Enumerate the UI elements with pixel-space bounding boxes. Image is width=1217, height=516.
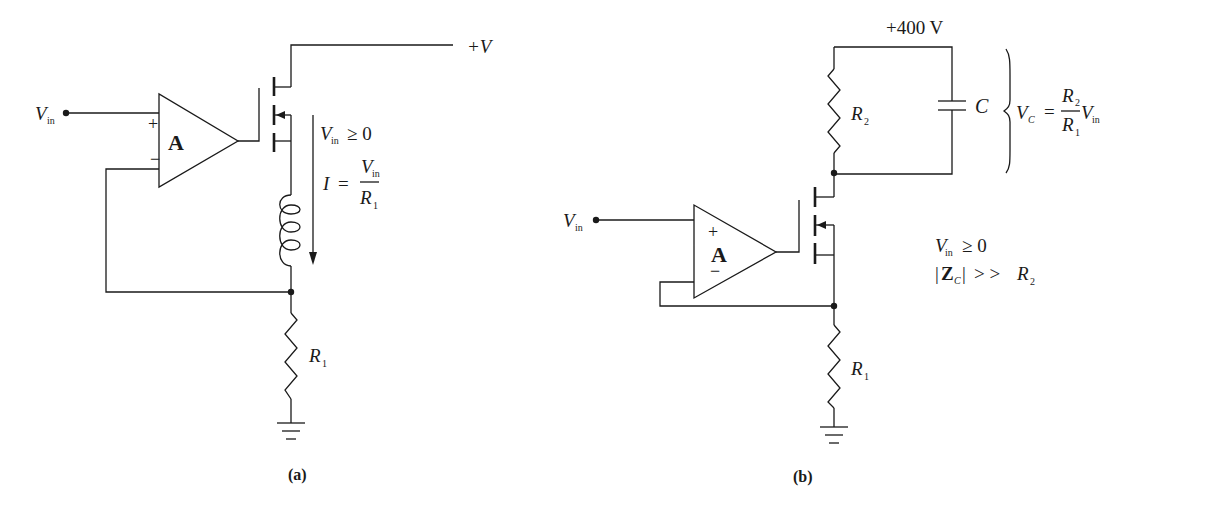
cond2-z-b: Z xyxy=(941,263,954,284)
opamp-plus-a: + xyxy=(148,114,158,134)
feedback-wire-a xyxy=(106,169,291,292)
arrow-head-icon xyxy=(309,252,317,265)
vin-sub-b: in xyxy=(575,222,583,233)
cap-label-b: C xyxy=(975,95,989,117)
vin-sub-a: in xyxy=(47,115,55,126)
inductor-a xyxy=(280,195,300,266)
resistor-r2-b xyxy=(828,69,840,153)
cond-sub-a: in xyxy=(331,135,339,146)
vc-den-sub-b: 1 xyxy=(1075,127,1080,138)
panel-a: V in + − A +V V in xyxy=(35,36,494,484)
feedback-wire-b xyxy=(660,282,834,306)
circuit-diagram: V in + − A +V V in xyxy=(0,0,1217,516)
caption-a: (a) xyxy=(288,466,307,484)
vc-num-b: R xyxy=(1061,85,1074,106)
vc-den-b: R xyxy=(1061,114,1074,135)
cond1-sub-b: in xyxy=(945,247,953,258)
cond1-rest-b: ≥ 0 xyxy=(962,235,987,256)
cond2-close-b: | xyxy=(962,263,966,284)
supply-rail-b xyxy=(834,47,952,101)
capacitor-b xyxy=(938,101,966,110)
supply-wire-a xyxy=(291,45,453,87)
cond2-rest-b: > > xyxy=(974,263,1000,284)
cond-rest-a: ≥ 0 xyxy=(347,123,372,144)
panel-b: V in + − A R 2 +400 V xyxy=(563,17,1100,486)
supply-label-b: +400 V xyxy=(886,17,944,38)
resistor-r1-a xyxy=(285,313,297,399)
cond2-zsub-b: C xyxy=(954,275,961,286)
eq-den-sub-a: 1 xyxy=(373,200,378,211)
r2-sub-b: 2 xyxy=(864,116,869,127)
vc-eq-b: = xyxy=(1044,101,1055,122)
vc-sub-b: C xyxy=(1028,114,1035,125)
cond2-rsub-b: 2 xyxy=(1030,276,1035,287)
brace-icon xyxy=(1004,49,1010,173)
opamp-minus-a: − xyxy=(150,149,160,169)
ground-icon xyxy=(820,427,848,443)
supply-label-a: +V xyxy=(467,36,494,57)
r1-label-a: R xyxy=(308,345,321,366)
opamp-label-b: A xyxy=(711,242,727,267)
r1-sub-a: 1 xyxy=(322,358,327,369)
eq-num-sub-a: in xyxy=(372,168,380,179)
opamp-label-a: A xyxy=(168,130,184,155)
r2-label-b: R xyxy=(850,103,863,124)
eq-eq-a: = xyxy=(338,173,349,194)
vc-vin-sub-b: in xyxy=(1092,114,1100,125)
eq-den-a: R xyxy=(359,187,372,208)
vc-num-sub-b: 2 xyxy=(1075,97,1080,108)
gate-wire-b xyxy=(776,200,799,252)
cond2-r-b: R xyxy=(1016,263,1029,284)
opamp-b xyxy=(694,205,776,298)
ground-icon xyxy=(277,423,305,439)
caption-b: (b) xyxy=(793,468,813,486)
cond2-open-b: | xyxy=(935,263,939,284)
mosfet-b xyxy=(815,187,834,264)
r1-label-b: R xyxy=(850,358,863,379)
eq-lhs-a: I xyxy=(322,173,331,194)
gate-wire-a xyxy=(238,88,259,141)
resistor-r1-b xyxy=(828,325,840,408)
mosfet-a xyxy=(274,77,291,152)
opamp-plus-b: + xyxy=(708,222,718,242)
r1-sub-b: 1 xyxy=(864,371,869,382)
